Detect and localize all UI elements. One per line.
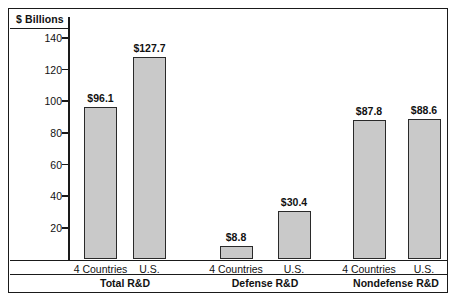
- y-tick-mark: [62, 132, 68, 134]
- category-tick-label: 4 Countries: [209, 263, 263, 275]
- bar-value-label: $8.8: [226, 231, 246, 243]
- category-tick-label: U.S.: [139, 263, 159, 275]
- y-tick-label: 140: [10, 32, 62, 44]
- bar-value-label: $96.1: [87, 92, 113, 104]
- category-tick-label: 4 Countries: [342, 263, 396, 275]
- plot-area: $ Billions 20406080100120140 $96.1$127.7…: [0, 0, 460, 302]
- bar: [408, 119, 441, 259]
- bar: [353, 120, 386, 259]
- unit-label-rule: [10, 28, 69, 30]
- y-tick-label: 20: [10, 222, 62, 234]
- bar: [133, 57, 166, 259]
- category-tick-label: U.S.: [284, 263, 304, 275]
- group-label: Defense R&D: [232, 277, 299, 289]
- y-tick-label: 60: [10, 159, 62, 171]
- x-axis-line: [10, 260, 447, 262]
- bar-chart-figure: $ Billions 20406080100120140 $96.1$127.7…: [0, 0, 460, 302]
- group-label: Nondefense R&D: [353, 277, 439, 289]
- category-tick-label: 4 Countries: [74, 263, 128, 275]
- y-tick-mark: [62, 100, 68, 102]
- category-tick-label: U.S.: [414, 263, 434, 275]
- bar-value-label: $30.4: [281, 196, 307, 208]
- y-axis-unit-label: $ Billions: [16, 13, 64, 25]
- y-tick-mark: [62, 195, 68, 197]
- y-axis-line: [68, 17, 70, 260]
- bar: [84, 107, 117, 259]
- bar-value-label: $87.8: [356, 105, 382, 117]
- bar-value-label: $88.6: [411, 104, 437, 116]
- y-tick-label: 120: [10, 64, 62, 76]
- y-tick-label: 40: [10, 190, 62, 202]
- bar: [278, 211, 311, 259]
- group-label: Total R&D: [100, 277, 150, 289]
- bar-value-label: $127.7: [133, 42, 165, 54]
- y-tick-mark: [62, 37, 68, 39]
- y-tick-label: 80: [10, 127, 62, 139]
- y-tick-mark: [62, 227, 68, 229]
- y-tick-mark: [62, 69, 68, 71]
- bar: [220, 246, 253, 260]
- y-tick-mark: [62, 164, 68, 166]
- y-tick-label: 100: [10, 95, 62, 107]
